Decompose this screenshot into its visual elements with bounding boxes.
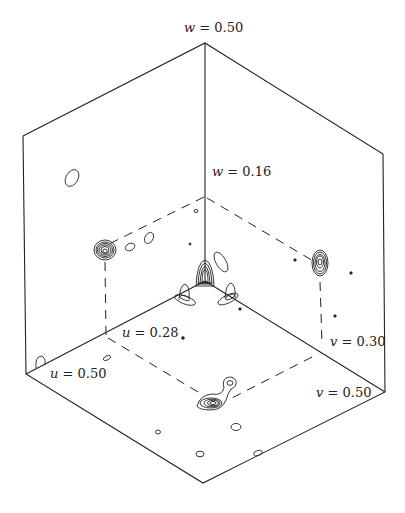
peak-uw-plane xyxy=(94,240,116,260)
contour-small xyxy=(194,210,198,213)
label-v-outer: v = 0.50 xyxy=(316,385,371,400)
label-var: w xyxy=(184,20,195,35)
dashed-w016-left xyxy=(105,197,204,246)
contour-small xyxy=(62,167,81,189)
dashed-u028-vertical xyxy=(105,262,106,336)
peak-uv-plane xyxy=(197,377,236,410)
label-value: = 0.28 xyxy=(135,325,179,340)
peak-vw-plane xyxy=(312,250,328,276)
box-diagram xyxy=(0,0,405,513)
label-var: v xyxy=(316,385,323,400)
label-w-inner: w = 0.16 xyxy=(212,164,271,179)
dashed-u028-floor xyxy=(108,338,198,392)
label-value: = 0.50 xyxy=(328,385,372,400)
label-var: w xyxy=(212,164,223,179)
contour-dot xyxy=(239,308,241,310)
dashed-v030-vertical xyxy=(320,282,322,344)
contour-dot xyxy=(350,272,352,274)
dashed-v030-floor xyxy=(228,357,312,400)
label-v-inner: v = 0.30 xyxy=(330,334,385,349)
contour-small xyxy=(231,424,241,431)
label-var: u xyxy=(122,325,130,340)
contour-small xyxy=(196,451,204,457)
contour-dot xyxy=(294,259,296,261)
contour-small xyxy=(124,242,136,253)
contour-dot xyxy=(334,315,336,317)
label-value: = 0.30 xyxy=(342,334,386,349)
label-value: = 0.50 xyxy=(63,366,107,381)
label-u-inner: u = 0.28 xyxy=(122,325,179,340)
contour-elongated xyxy=(211,250,231,274)
contour-box-figure: w = 0.50 w = 0.16 u = 0.28 u = 0.50 v = … xyxy=(0,0,405,513)
contour-small xyxy=(103,354,112,361)
contour-dot xyxy=(189,243,191,245)
label-var: v xyxy=(330,334,337,349)
label-value: = 0.50 xyxy=(199,20,243,35)
contour-dot xyxy=(182,337,185,340)
label-u-outer: u = 0.50 xyxy=(50,366,107,381)
contour-small xyxy=(156,430,161,434)
label-w-top: w = 0.50 xyxy=(184,20,243,35)
dashed-w016-right xyxy=(207,198,315,262)
label-value: = 0.16 xyxy=(227,164,271,179)
label-var: u xyxy=(50,366,58,381)
contour-small xyxy=(143,231,156,245)
contour-small xyxy=(253,449,263,457)
